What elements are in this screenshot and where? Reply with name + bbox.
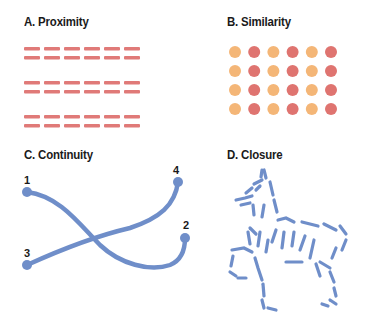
similarity-dot	[325, 46, 337, 58]
proximity-dash	[124, 115, 140, 119]
similarity-dot	[267, 65, 279, 77]
label-4: 4	[173, 164, 180, 176]
similarity-dot	[306, 103, 318, 115]
similarity-dot	[267, 84, 279, 96]
similarity-dot	[325, 84, 337, 96]
proximity-dash	[84, 47, 100, 51]
proximity-dash	[84, 81, 100, 85]
similarity-dot	[267, 46, 279, 58]
similarity-dot	[267, 103, 279, 115]
proximity-dash	[44, 115, 60, 119]
proximity-dash	[124, 124, 140, 128]
proximity-dash	[64, 56, 80, 60]
proximity-dash	[104, 47, 120, 51]
proximity-dash	[44, 81, 60, 85]
proximity-dash	[124, 47, 140, 51]
similarity-dot	[306, 84, 318, 96]
similarity-dot	[325, 103, 337, 115]
similarity-dots	[229, 46, 337, 115]
proximity-dash	[64, 90, 80, 94]
proximity-dash	[24, 90, 40, 94]
proximity-dash	[24, 56, 40, 60]
similarity-dot	[229, 46, 241, 58]
proximity-dash	[84, 124, 100, 128]
proximity-dash	[44, 90, 60, 94]
proximity-dashes	[24, 47, 140, 128]
proximity-dash	[84, 56, 100, 60]
similarity-dot	[229, 103, 241, 115]
proximity-dash	[64, 47, 80, 51]
proximity-dash	[44, 47, 60, 51]
horse-figure	[230, 170, 346, 310]
similarity-dot	[306, 65, 318, 77]
similarity-dot	[287, 46, 299, 58]
proximity-dash	[84, 90, 100, 94]
proximity-dash	[124, 56, 140, 60]
proximity-dash	[24, 115, 40, 119]
proximity-dash	[84, 115, 100, 119]
proximity-dash	[64, 115, 80, 119]
gestalt-diagram: 1 2 3 4	[0, 0, 367, 331]
proximity-dash	[104, 115, 120, 119]
proximity-dash	[44, 124, 60, 128]
proximity-dash	[104, 81, 120, 85]
endpoint-3	[22, 260, 32, 270]
similarity-dot	[248, 103, 260, 115]
proximity-dash	[124, 81, 140, 85]
similarity-dot	[325, 65, 337, 77]
similarity-dot	[229, 65, 241, 77]
similarity-dot	[306, 46, 318, 58]
similarity-dot	[287, 84, 299, 96]
label-1: 1	[24, 174, 30, 186]
similarity-dot	[287, 103, 299, 115]
proximity-dash	[24, 81, 40, 85]
endpoint-2	[180, 233, 190, 243]
proximity-dash	[24, 47, 40, 51]
similarity-dot	[229, 84, 241, 96]
endpoint-1	[22, 187, 32, 197]
endpoint-4	[173, 177, 183, 187]
curve-3-to-4	[27, 182, 178, 265]
similarity-dot	[248, 46, 260, 58]
similarity-dot	[248, 65, 260, 77]
proximity-dash	[24, 124, 40, 128]
similarity-dot	[248, 84, 260, 96]
proximity-dash	[124, 90, 140, 94]
proximity-dash	[44, 56, 60, 60]
proximity-dash	[64, 81, 80, 85]
proximity-dash	[64, 124, 80, 128]
proximity-dash	[104, 124, 120, 128]
proximity-dash	[104, 90, 120, 94]
continuity-lines	[27, 182, 185, 268]
label-2: 2	[183, 219, 189, 231]
label-3: 3	[24, 247, 30, 259]
similarity-dot	[287, 65, 299, 77]
proximity-dash	[104, 56, 120, 60]
